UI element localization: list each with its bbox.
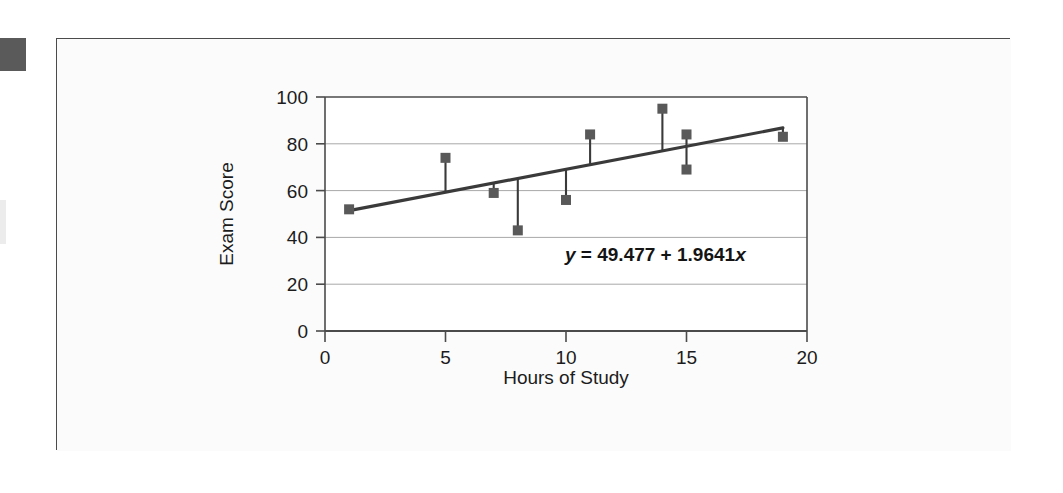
scatter-plot-svg: 020406080100 05101520 y = 49.477 + 1.964… xyxy=(57,39,1011,451)
y-tick-label: 40 xyxy=(287,227,308,248)
figure-frame: 020406080100 05101520 y = 49.477 + 1.964… xyxy=(56,38,1010,450)
y-tick-label: 60 xyxy=(287,181,308,202)
x-tick-label: 5 xyxy=(440,347,451,368)
data-point-marker xyxy=(344,204,354,214)
data-point-marker xyxy=(682,165,692,175)
scan-edge-artifact xyxy=(0,38,26,71)
data-point-marker xyxy=(778,132,788,142)
y-tick-label: 0 xyxy=(297,321,308,342)
x-tick-label: 10 xyxy=(555,347,576,368)
scan-edge-smudge xyxy=(0,200,6,244)
page-canvas: 020406080100 05101520 y = 49.477 + 1.964… xyxy=(0,0,1063,493)
data-point-marker xyxy=(441,153,451,163)
data-point-marker xyxy=(585,129,595,139)
data-point-marker xyxy=(489,188,499,198)
x-axis-title: Hours of Study xyxy=(503,367,629,388)
y-tick-label: 100 xyxy=(276,87,308,108)
regression-equation-annotation: y = 49.477 + 1.9641x xyxy=(564,244,747,265)
y-tick-label: 80 xyxy=(287,134,308,155)
data-point-marker xyxy=(657,104,667,114)
data-point-marker xyxy=(682,129,692,139)
x-tick-label: 0 xyxy=(320,347,331,368)
y-axis-title: Exam Score xyxy=(216,162,237,265)
x-tick-label: 15 xyxy=(676,347,697,368)
chart-area: 020406080100 05101520 y = 49.477 + 1.964… xyxy=(57,39,1009,449)
data-point-marker xyxy=(561,195,571,205)
data-point-marker xyxy=(513,225,523,235)
plot-background xyxy=(325,97,807,331)
x-tick-label: 20 xyxy=(796,347,817,368)
y-tick-label: 20 xyxy=(287,274,308,295)
